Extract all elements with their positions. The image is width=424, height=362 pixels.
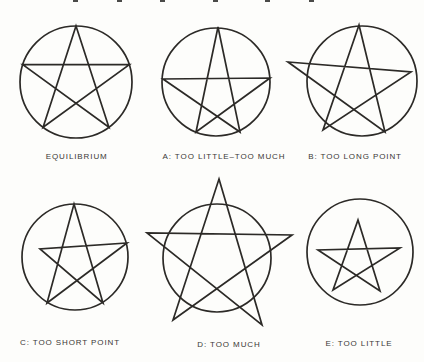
diagram-b-too-long-point bbox=[288, 25, 417, 136]
label-e-too-little: E: TOO LITTLE bbox=[326, 339, 393, 348]
diagrams-svg bbox=[0, 0, 424, 362]
label-a-too-little-too-much: A: TOO LITTLE–TOO MUCH bbox=[163, 152, 286, 161]
figure-canvas: EQUILIBRIUM A: TOO LITTLE–TOO MUCH B: TO… bbox=[0, 0, 424, 362]
diagram-d-too-much bbox=[147, 179, 292, 325]
star-c-too-short-point bbox=[40, 204, 127, 303]
cropped-caption-fragment bbox=[213, 0, 218, 2]
cropped-caption-fragment bbox=[309, 0, 314, 2]
circle-c-too-short-point bbox=[22, 204, 128, 310]
cropped-caption-fragment bbox=[265, 0, 270, 2]
label-d-too-much: D: TOO MUCH bbox=[197, 340, 260, 349]
cropped-caption-fragment bbox=[160, 0, 165, 2]
diagram-c-too-short-point bbox=[22, 204, 128, 310]
label-b-too-long-point: B: TOO LONG POINT bbox=[308, 152, 402, 161]
diagram-a-too-little-too-much bbox=[162, 27, 270, 136]
label-equilibrium: EQUILIBRIUM bbox=[46, 152, 108, 161]
cropped-caption-fragment bbox=[73, 0, 78, 2]
circle-a-too-little-too-much bbox=[162, 28, 270, 136]
circle-e-too-little bbox=[307, 199, 413, 305]
diagram-equilibrium bbox=[20, 26, 132, 138]
label-c-too-short-point: C: TOO SHORT POINT bbox=[20, 338, 120, 347]
circle-equilibrium bbox=[20, 26, 132, 138]
star-e-too-little bbox=[318, 220, 400, 291]
diagram-e-too-little bbox=[307, 199, 413, 305]
circle-b-too-long-point bbox=[307, 26, 417, 136]
cropped-caption-fragment bbox=[117, 0, 122, 2]
